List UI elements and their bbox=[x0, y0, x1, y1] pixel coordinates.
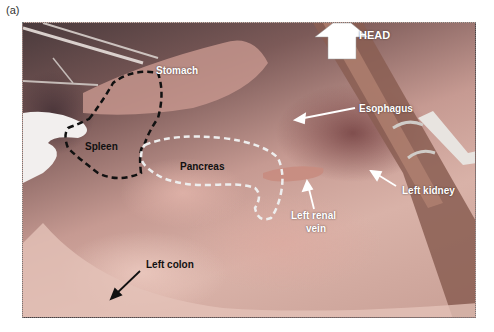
left-colon-label: Left colon bbox=[146, 259, 194, 270]
stomach-label: Stomach bbox=[156, 65, 198, 76]
left-renal-vein-label-line1: Left renal bbox=[291, 210, 336, 221]
retractor-muscle bbox=[313, 23, 476, 318]
panel-label: (a) bbox=[6, 4, 19, 16]
photo-overlay bbox=[23, 23, 476, 318]
colon-tissue bbox=[23, 223, 476, 318]
pancreas-label: Pancreas bbox=[180, 161, 224, 172]
left-renal-vein-label-line2: vein bbox=[306, 223, 326, 234]
gloved-hand bbox=[23, 112, 87, 183]
head-label: HEAD bbox=[359, 29, 390, 41]
esophagus-label: Esophagus bbox=[359, 103, 413, 114]
pancreas-outline bbox=[141, 137, 282, 220]
left-kidney-label: Left kidney bbox=[402, 185, 455, 196]
stomach-tissue bbox=[83, 41, 268, 115]
renal-vein-arrow bbox=[303, 181, 314, 209]
esophagus-arrow bbox=[295, 108, 355, 123]
spleen-label: Spleen bbox=[85, 141, 118, 152]
surgical-photo: HEAD Stomach Esophagus Spleen Pancreas L… bbox=[22, 22, 476, 318]
kidney-arrow bbox=[371, 171, 396, 186]
